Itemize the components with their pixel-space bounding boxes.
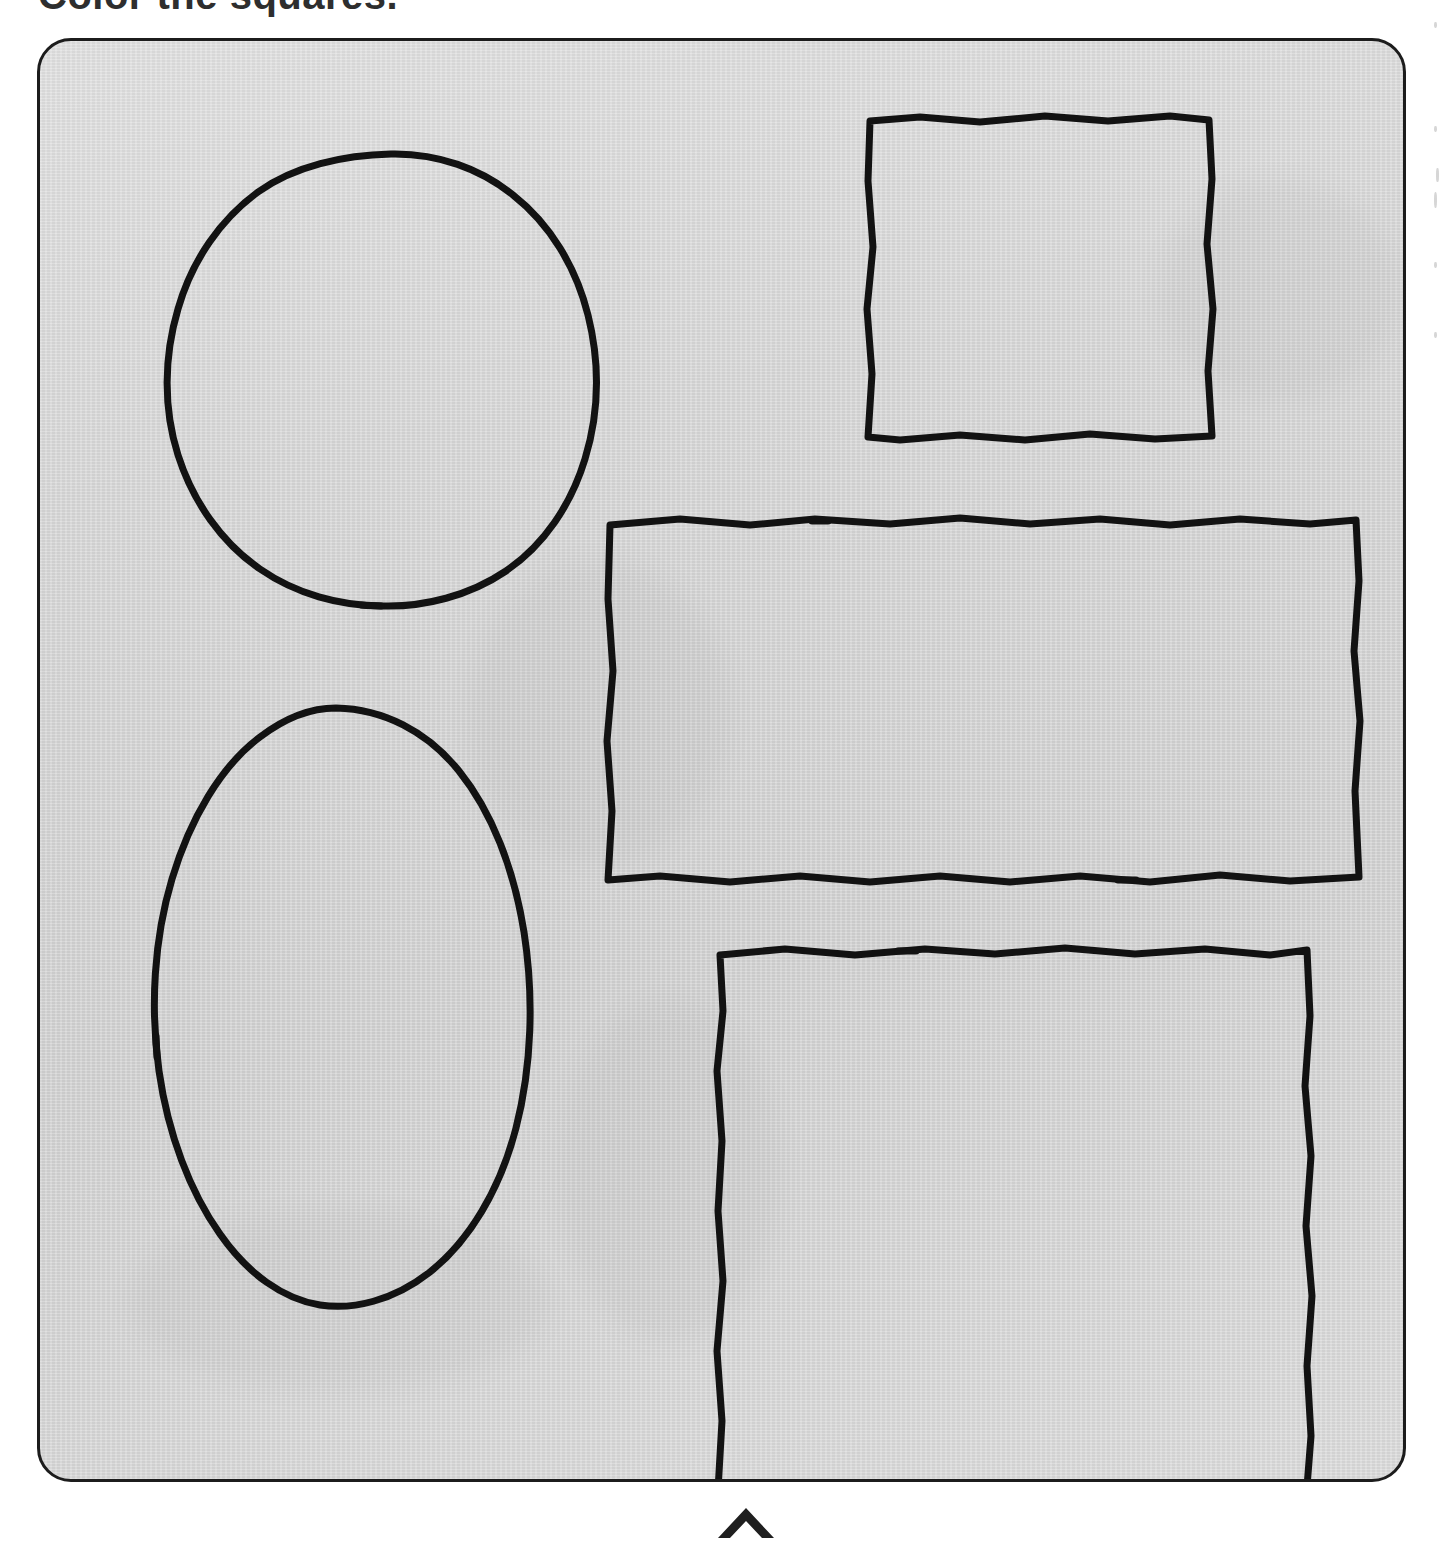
shape-square-large[interactable] bbox=[710, 941, 1315, 1482]
shape-circle[interactable] bbox=[148, 147, 618, 607]
page-title: Color the squares. bbox=[38, 0, 738, 18]
shape-rect-wide[interactable] bbox=[600, 511, 1365, 886]
shape-oval[interactable] bbox=[140, 701, 540, 1311]
scan-fleck bbox=[1434, 192, 1437, 208]
shape-square-small[interactable] bbox=[860, 109, 1218, 444]
scan-fleck bbox=[1434, 22, 1437, 28]
scan-fleck bbox=[1436, 168, 1439, 182]
shape-panel bbox=[37, 38, 1406, 1482]
up-chevron-icon bbox=[712, 1506, 780, 1541]
scan-fleck bbox=[1434, 262, 1437, 268]
scan-fleck bbox=[1434, 126, 1437, 132]
scan-fleck bbox=[1434, 332, 1437, 338]
